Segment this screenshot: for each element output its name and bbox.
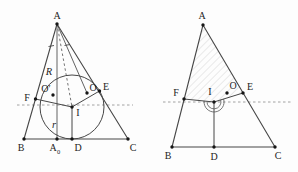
right-point-I — [212, 100, 215, 103]
right-point-O — [225, 91, 228, 94]
left-point-O-prime — [51, 93, 54, 96]
right-label-D: D — [210, 151, 217, 162]
geometry-canvas: A B C A 0 D F E I O′ O R r — [0, 0, 298, 172]
left-point-C — [126, 137, 129, 140]
left-label-A0-subscript: 0 — [57, 148, 60, 155]
right-label-O: O — [229, 80, 236, 91]
left-label-C: C — [130, 142, 137, 153]
left-point-I — [70, 105, 73, 108]
left-point-A0 — [55, 137, 58, 140]
left-point-D — [70, 137, 73, 140]
left-label-B: B — [18, 142, 25, 153]
left-diagram: A B C A 0 D F E I O′ O R r — [17, 10, 137, 155]
right-label-A: A — [198, 10, 206, 21]
left-point-B — [22, 137, 25, 140]
left-angle-tick-2 — [65, 45, 71, 46]
right-label-B: B — [165, 150, 172, 161]
left-label-A: A — [53, 10, 61, 21]
right-label-C: C — [275, 150, 282, 161]
right-point-F — [182, 97, 185, 100]
left-line-AO — [57, 24, 87, 93]
right-point-D — [212, 145, 215, 148]
right-diagram: A B C D F E I O — [163, 10, 291, 162]
left-label-O: O — [89, 82, 96, 93]
left-label-F: F — [24, 92, 30, 103]
left-label-r: r — [52, 119, 57, 130]
left-point-F — [34, 97, 37, 100]
left-point-O — [85, 91, 88, 94]
left-label-R: R — [45, 66, 53, 77]
left-segment-FI — [36, 99, 73, 107]
right-label-E: E — [247, 81, 253, 92]
right-point-B — [170, 145, 173, 148]
left-point-A — [55, 22, 58, 25]
right-point-E — [241, 91, 244, 94]
right-label-I: I — [208, 86, 211, 97]
left-label-D: D — [74, 142, 81, 153]
geometry-figure: A B C A 0 D F E I O′ O R r — [0, 0, 298, 172]
right-point-C — [273, 145, 276, 148]
right-label-F: F — [173, 87, 179, 98]
left-point-E — [98, 89, 101, 92]
left-angle-tick-1 — [49, 46, 55, 47]
left-label-E: E — [103, 81, 109, 92]
right-point-A — [201, 23, 204, 26]
left-label-O-prime: O′ — [41, 83, 50, 94]
left-label-I: I — [76, 107, 79, 118]
